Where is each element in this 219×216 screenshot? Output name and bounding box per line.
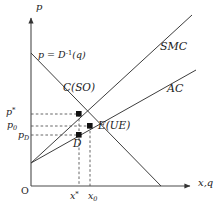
x-tick-x-star-sup: * bbox=[75, 190, 78, 198]
marker-point-e bbox=[87, 123, 93, 129]
smc-curve-label: SMC bbox=[160, 41, 187, 52]
point-marker-group bbox=[76, 111, 93, 138]
inverse-demand-curve bbox=[31, 53, 161, 186]
economics-diagram: p x,q O SMC AC p = D-1(q) C(SO) E(UE) D … bbox=[0, 0, 219, 216]
y-tick-p-star-sup: * bbox=[12, 106, 15, 114]
ac-curve-label: AC bbox=[167, 83, 183, 94]
inverse-demand-label-prefix: p = D bbox=[38, 49, 66, 60]
y-axis-label: p bbox=[36, 2, 42, 12]
point-e-label: E(UE) bbox=[98, 120, 130, 131]
x-tick-x-zero: x0 bbox=[88, 191, 97, 201]
inverse-demand-label: p = D-1(q) bbox=[38, 50, 86, 60]
x-tick-x-star: x* bbox=[70, 191, 79, 201]
dashed-guide-group bbox=[31, 114, 90, 186]
y-tick-p-d-sub: D bbox=[24, 134, 29, 142]
y-tick-p-star: p* bbox=[6, 107, 16, 117]
y-tick-p-zero-sub: 0 bbox=[13, 124, 17, 132]
x-axis-label: x,q bbox=[198, 178, 213, 188]
origin-label: O bbox=[21, 186, 29, 196]
diagram-canvas bbox=[0, 0, 219, 216]
point-d-label: D bbox=[73, 138, 81, 149]
inverse-demand-label-suffix: (q) bbox=[72, 49, 86, 60]
marker-point-c bbox=[76, 111, 82, 117]
point-c-label: C(SO) bbox=[63, 82, 95, 93]
inverse-demand-label-exponent: -1 bbox=[66, 49, 72, 57]
x-tick-x-zero-sub: 0 bbox=[93, 195, 97, 203]
y-tick-p-zero: p0 bbox=[7, 120, 17, 130]
y-tick-p-d: pD bbox=[18, 130, 29, 140]
